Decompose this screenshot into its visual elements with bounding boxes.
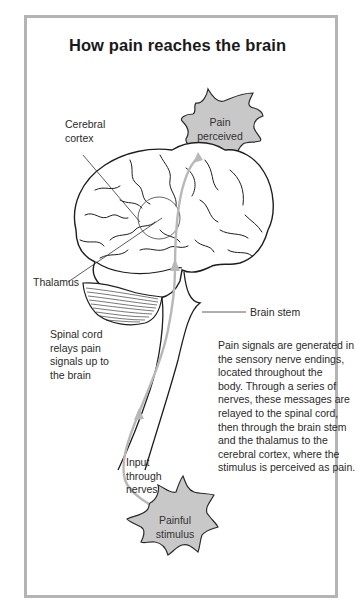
description-line: and the thalamus to the <box>218 434 336 448</box>
description-line: then through the brain stem <box>218 421 336 435</box>
label-line: perceived <box>186 130 254 144</box>
label-painful-stimulus: Painful stimulus <box>146 514 204 541</box>
label-line: relays pain <box>50 342 109 356</box>
label-line: the brain <box>50 369 109 383</box>
description-line: nerves, these messages are <box>218 393 336 407</box>
description-line: cerebral cortex, where the <box>218 448 336 462</box>
description-line: body. Through a series of <box>218 380 336 394</box>
label-line: nerves <box>126 483 162 497</box>
label-line: Cerebral <box>65 118 105 132</box>
label-input-nerves: Input through nerves <box>126 456 162 497</box>
description-line: located throughout the <box>218 366 336 380</box>
label-brain-stem: Brain stem <box>250 306 300 320</box>
label-pain-perceived: Pain perceived <box>186 116 254 143</box>
label-line: through <box>126 470 162 484</box>
description-line: relayed to the spinal cord, <box>218 407 336 421</box>
description-paragraph: Pain signals are generated in the sensor… <box>218 339 336 475</box>
label-spinal-cord: Spinal cord relays pain signals up to th… <box>50 328 109 382</box>
label-line: Input <box>126 456 162 470</box>
description-line: stimulus is perceived as pain. <box>218 461 336 475</box>
label-line: Pain <box>186 116 254 130</box>
label-line: cortex <box>65 132 105 146</box>
label-line: stimulus <box>146 528 204 542</box>
label-line: signals up to <box>50 355 109 369</box>
label-thalamus: Thalamus <box>33 276 79 290</box>
description-line: the sensory nerve endings, <box>218 353 336 367</box>
label-cerebral-cortex: Cerebral cortex <box>65 118 105 145</box>
description-line: Pain signals are generated in <box>218 339 336 353</box>
label-line: Spinal cord <box>50 328 109 342</box>
label-line: Painful <box>146 514 204 528</box>
